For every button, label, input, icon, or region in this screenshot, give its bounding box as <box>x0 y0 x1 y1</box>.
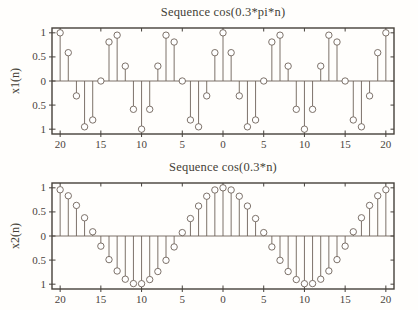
y-tick-label: 0.5 <box>32 99 46 111</box>
y-tick-label: 1 <box>41 123 47 135</box>
data-point-marker <box>383 30 389 36</box>
y-tick-label: 1 <box>41 26 47 38</box>
data-point-marker <box>366 93 372 99</box>
data-point-marker <box>187 215 193 221</box>
data-point-marker <box>195 124 201 130</box>
data-point-marker <box>383 187 389 193</box>
data-point-marker <box>195 203 201 209</box>
x-tick-label: 15 <box>95 293 107 305</box>
data-point-marker <box>293 276 299 282</box>
data-point-marker <box>114 32 120 38</box>
data-point-marker <box>326 32 332 38</box>
data-point-marker <box>73 93 79 99</box>
data-point-marker <box>187 117 193 123</box>
data-point-marker <box>358 124 364 130</box>
data-point-marker <box>236 193 242 199</box>
data-point-marker <box>65 49 71 55</box>
data-point-marker <box>147 276 153 282</box>
x-tick-label: 5 <box>261 138 267 150</box>
data-point-marker <box>252 117 258 123</box>
x-tick-label: 20 <box>380 138 392 150</box>
x-tick-label: 5 <box>261 293 267 305</box>
data-point-marker <box>163 257 169 263</box>
data-point-marker <box>212 49 218 55</box>
data-point-marker <box>301 281 307 287</box>
data-point-marker <box>57 187 63 193</box>
data-point-marker <box>171 39 177 45</box>
data-point-marker <box>350 117 356 123</box>
data-point-marker <box>204 193 210 199</box>
y-tick-label: 0 <box>41 75 47 87</box>
data-point-marker <box>334 39 340 45</box>
data-point-marker <box>334 256 340 262</box>
data-point-marker <box>252 215 258 221</box>
x-tick-label: 0 <box>220 138 226 150</box>
x-tick-label: 5 <box>180 293 186 305</box>
panel-x1: Sequence cos(0.3*pi*n) x1(n) 20151050510… <box>0 0 418 155</box>
x-tick-label: 10 <box>136 293 148 305</box>
data-point-marker <box>375 49 381 55</box>
data-point-marker <box>244 203 250 209</box>
x-tick-label: 20 <box>380 293 392 305</box>
x-tick-label: 10 <box>136 138 148 150</box>
data-point-marker <box>309 106 315 112</box>
data-point-marker <box>138 281 144 287</box>
data-point-marker <box>98 78 104 84</box>
data-point-marker <box>73 202 79 208</box>
data-point-marker <box>342 78 348 84</box>
data-point-marker <box>309 280 315 286</box>
data-point-marker <box>220 185 226 191</box>
data-point-marker <box>342 243 348 249</box>
data-point-marker <box>122 276 128 282</box>
x-tick-label: 15 <box>95 138 107 150</box>
data-point-marker <box>65 193 71 199</box>
data-point-marker <box>277 32 283 38</box>
data-point-marker <box>326 268 332 274</box>
y-tick-label: 1 <box>41 278 47 290</box>
data-point-marker <box>269 39 275 45</box>
data-point-marker <box>122 63 128 69</box>
data-point-marker <box>301 126 307 132</box>
data-point-marker <box>179 78 185 84</box>
y-tick-label: 0.5 <box>32 205 46 217</box>
y-tick-label: 0 <box>41 230 47 242</box>
data-point-marker <box>277 257 283 263</box>
x-tick-label: 0 <box>220 293 226 305</box>
data-point-marker <box>155 63 161 69</box>
data-point-marker <box>318 63 324 69</box>
data-point-marker <box>318 276 324 282</box>
data-point-marker <box>57 30 63 36</box>
data-point-marker <box>130 106 136 112</box>
data-point-marker <box>293 106 299 112</box>
data-point-marker <box>358 215 364 221</box>
data-point-marker <box>106 39 112 45</box>
data-point-marker <box>147 106 153 112</box>
data-point-marker <box>220 30 226 36</box>
y-tick-label: 0.5 <box>32 254 46 266</box>
stem-plot-x2: 20151050510152010.500.51 <box>0 155 418 310</box>
stem-plot-x1: 20151050510152010.500.51 <box>0 0 418 155</box>
panel-x2: Sequence cos(0.3*n) x2(n) 20151050510152… <box>0 155 418 310</box>
data-point-marker <box>261 78 267 84</box>
x-tick-label: 10 <box>299 138 311 150</box>
tick-labels: 20151050510152010.500.51 <box>32 181 392 305</box>
data-point-marker <box>81 124 87 130</box>
data-point-marker <box>138 126 144 132</box>
data-point-marker <box>366 202 372 208</box>
y-tick-label: 1 <box>41 181 47 193</box>
x-tick-label: 20 <box>55 138 67 150</box>
y-tick-label: 0.5 <box>32 50 46 62</box>
data-point-marker <box>90 229 96 235</box>
data-point-marker <box>244 124 250 130</box>
data-point-marker <box>228 187 234 193</box>
data-point-marker <box>285 268 291 274</box>
x-tick-label: 10 <box>299 293 311 305</box>
data-point-marker <box>236 93 242 99</box>
data-point-marker <box>261 229 267 235</box>
data-point-marker <box>90 117 96 123</box>
data-point-marker <box>212 187 218 193</box>
data-point-marker <box>155 268 161 274</box>
data-point-marker <box>130 280 136 286</box>
data-point-marker <box>269 244 275 250</box>
data-point-marker <box>350 229 356 235</box>
